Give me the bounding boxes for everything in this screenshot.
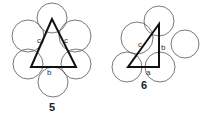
label-hypotenuse: c xyxy=(138,40,142,49)
circle-lower-right xyxy=(61,49,91,79)
figure-number: 5 xyxy=(49,101,55,113)
circle-lower-left xyxy=(13,49,43,79)
label-base: b xyxy=(47,68,52,77)
label-left-side: c xyxy=(37,36,41,45)
label-base: a xyxy=(146,68,151,77)
right-triangle xyxy=(128,24,159,67)
figure-5: c c b 5 xyxy=(12,3,91,113)
figure-number: 6 xyxy=(141,79,147,91)
circle-bottom xyxy=(38,67,68,97)
label-right-side: c xyxy=(64,36,68,45)
circle-right xyxy=(171,30,199,58)
figure-6: c b a 6 xyxy=(112,6,199,91)
label-vertical-leg: b xyxy=(161,43,166,52)
diagram-canvas: c c b 5 c b a 6 xyxy=(0,0,211,119)
